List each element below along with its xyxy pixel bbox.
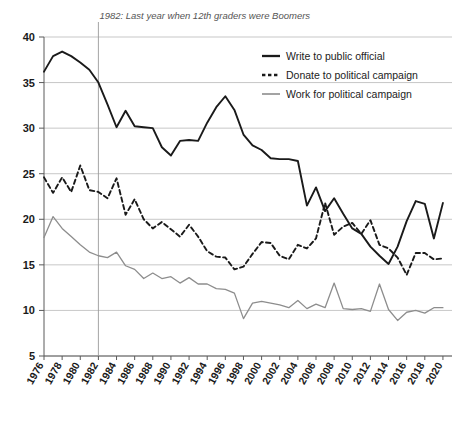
x-tick-label: 1998 xyxy=(223,360,245,386)
x-tick-label: 2012 xyxy=(350,360,372,386)
x-tick-label: 1986 xyxy=(114,360,136,386)
x-tick-label: 1982 xyxy=(78,360,100,386)
x-tick-label: 1976 xyxy=(24,360,46,386)
y-tick-label: 30 xyxy=(23,122,35,134)
x-tick-label: 2014 xyxy=(368,360,390,386)
x-tick-label: 2002 xyxy=(259,360,281,386)
x-tick-label: 2004 xyxy=(278,360,300,386)
x-tick-label: 1980 xyxy=(60,360,82,386)
x-tick-label: 1990 xyxy=(151,360,173,386)
x-tick-label: 1978 xyxy=(42,360,64,386)
chart-legend: Write to public officialDonate to politi… xyxy=(262,50,418,100)
series-line-2 xyxy=(44,217,443,321)
x-tick-label: 1996 xyxy=(205,360,227,386)
x-tick-label: 2008 xyxy=(314,360,336,386)
y-tick-label: 15 xyxy=(23,259,35,271)
x-tick-label: 1994 xyxy=(187,360,209,386)
x-tick-label: 1988 xyxy=(132,360,154,386)
x-tick-label: 2000 xyxy=(241,360,263,386)
y-tick-label: 25 xyxy=(23,168,35,180)
legend-label-2: Work for political campaign xyxy=(286,88,412,100)
line-chart: 510152025303540 197619781980198219841986… xyxy=(0,0,458,422)
annotation-label-group: 1982: Last year when 12th graders were B… xyxy=(99,10,310,21)
x-tick-label: 1992 xyxy=(169,360,191,386)
x-axis-ticks: 1976197819801982198419861988199019921994… xyxy=(24,356,445,386)
annotation-text: 1982: Last year when 12th graders were B… xyxy=(99,10,310,21)
legend-label-1: Donate to political campaign xyxy=(286,69,418,81)
y-axis-ticks: 510152025303540 xyxy=(23,31,44,362)
x-tick-label: 2020 xyxy=(423,360,445,386)
x-tick-label: 2016 xyxy=(386,360,408,386)
y-tick-label: 5 xyxy=(29,350,35,362)
y-tick-label: 20 xyxy=(23,213,35,225)
x-tick-label: 2018 xyxy=(404,360,426,386)
legend-label-0: Write to public official xyxy=(286,50,385,62)
y-tick-label: 10 xyxy=(23,304,35,316)
series-line-0 xyxy=(44,52,443,264)
x-tick-label: 1984 xyxy=(96,360,118,386)
y-tick-label: 40 xyxy=(23,31,35,43)
x-tick-label: 2010 xyxy=(332,360,354,386)
x-tick-label: 2006 xyxy=(296,360,318,386)
y-tick-label: 35 xyxy=(23,77,35,89)
